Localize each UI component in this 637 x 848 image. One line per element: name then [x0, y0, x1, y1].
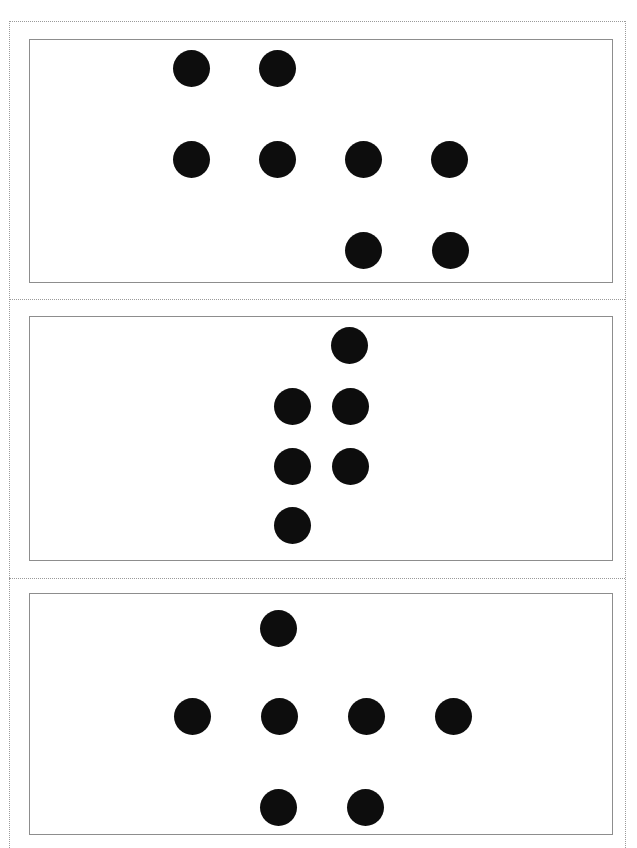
pattern-dot [274, 507, 311, 544]
pattern-dot [274, 388, 311, 425]
pattern-dot [345, 232, 382, 269]
page-guide-left-border [9, 21, 10, 848]
dot-pattern-panel [29, 316, 613, 561]
pattern-dot [259, 141, 296, 178]
pattern-dot [345, 141, 382, 178]
pattern-dot [435, 698, 472, 735]
pattern-dot [331, 327, 368, 364]
pattern-dot [431, 141, 468, 178]
pattern-dot [260, 610, 297, 647]
pattern-dot [348, 698, 385, 735]
pattern-dot [332, 388, 369, 425]
pattern-dot [347, 789, 384, 826]
page-guide-divider-2 [9, 578, 625, 579]
pattern-dot [432, 232, 469, 269]
page-guide-top-border [9, 21, 625, 22]
page-canvas [0, 0, 637, 848]
pattern-dot [174, 698, 211, 735]
pattern-dot [259, 50, 296, 87]
pattern-dot [173, 141, 210, 178]
pattern-dot [173, 50, 210, 87]
pattern-dot [274, 448, 311, 485]
pattern-dot [260, 789, 297, 826]
dot-pattern-panel [29, 593, 613, 835]
dot-pattern-panel [29, 39, 613, 283]
page-guide-right-border [625, 21, 626, 848]
pattern-dot [261, 698, 298, 735]
pattern-dot [332, 448, 369, 485]
page-guide-divider-1 [9, 299, 625, 300]
